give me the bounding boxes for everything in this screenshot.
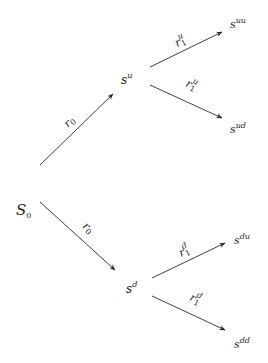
node-root: S0 (16, 201, 31, 220)
edge-label-u-ud: ru1 (183, 74, 200, 94)
edge-u-to-uu (150, 32, 222, 67)
edge-label-u-uu: ru1 (171, 31, 188, 51)
node-dd: sdd (234, 336, 250, 351)
binomial-tree-diagram: S0 su sd suu sud sdu sdd r0 r0 ru1 ru1 r… (0, 0, 268, 363)
edge-label-root-d: r0 (79, 220, 96, 237)
node-u: su (121, 71, 132, 87)
edge-label-d-dd: rd1 (187, 288, 204, 308)
edge-label-d-du: rd1 (175, 241, 192, 261)
edge-d-to-du (152, 243, 225, 278)
edge-root-to-u (40, 94, 113, 165)
node-du: sdu (234, 232, 250, 247)
edge-label-root-u: r0 (61, 114, 78, 131)
edge-u-to-ud (150, 85, 222, 118)
edge-root-to-d (40, 202, 115, 270)
node-d: sd (126, 280, 137, 296)
node-uu: suu (230, 16, 246, 31)
node-ud: sud (230, 121, 246, 136)
